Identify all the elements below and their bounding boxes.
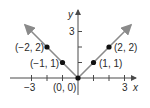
point-neg1-1 <box>60 60 65 65</box>
point-label-2-2: (2, 2) <box>114 42 137 53</box>
y-axis-label: y <box>67 9 74 20</box>
absolute-value-graph: y x 3 −3 3 (−2, 2) (−1, 1) (0, 0) (1, 1)… <box>0 0 150 108</box>
tick-label-x-neg3: −3 <box>24 82 36 93</box>
point-label-neg2-2: (−2, 2) <box>15 42 44 53</box>
x-axis-label: x <box>132 82 139 93</box>
point-2-2 <box>106 44 111 49</box>
point-neg2-2 <box>44 44 49 49</box>
tick-label-y3: 3 <box>69 26 75 37</box>
point-origin <box>75 75 80 80</box>
point-1-1 <box>91 60 96 65</box>
point-label-origin: (0, 0) <box>53 82 76 93</box>
point-label-neg1-1: (−1, 1) <box>30 58 59 69</box>
point-label-1-1: (1, 1) <box>99 58 122 69</box>
tick-label-x3: 3 <box>122 82 128 93</box>
y-ticks <box>78 32 82 63</box>
